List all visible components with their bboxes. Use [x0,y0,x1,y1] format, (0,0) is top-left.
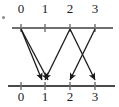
tick-label: 3 [88,2,102,16]
top-axis-group [12,24,113,32]
arrow-0-to-1b [21,29,48,80]
tick-label: 0 [14,2,28,16]
tick-label: 2 [63,2,77,16]
tick-label: 0 [14,90,28,104]
tick-label: 1 [38,2,52,16]
arrow-0-to-1a [21,29,42,80]
arrow-2-to-1 [45,29,70,80]
mapping-arrows [21,29,95,80]
tick-label: 3 [88,90,102,104]
bottom-axis-group [8,82,115,90]
tick-label: 1 [38,90,52,104]
tick-label: 2 [63,90,77,104]
diagram-canvas: 0123 0123 [0,0,119,107]
